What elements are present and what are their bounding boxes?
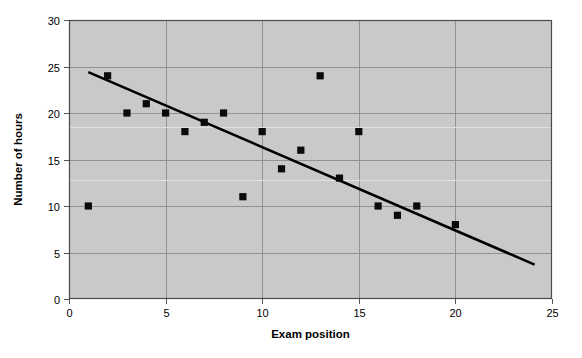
y-tick-label: 5 xyxy=(54,248,60,260)
data-point-marker xyxy=(375,202,382,209)
data-point-marker xyxy=(239,193,246,200)
y-tick-label: 25 xyxy=(48,62,60,74)
data-point-marker xyxy=(452,221,459,228)
data-point-marker xyxy=(336,175,343,182)
data-point-marker xyxy=(220,109,227,116)
x-tick-label: 15 xyxy=(353,307,365,319)
y-tick-label: 0 xyxy=(54,294,60,306)
x-axis-title: Exam position xyxy=(271,328,350,340)
x-tick-label: 10 xyxy=(256,307,268,319)
data-point-marker xyxy=(297,147,304,154)
data-point-marker xyxy=(413,202,420,209)
y-axis-title: Number of hours xyxy=(12,113,24,206)
data-point-marker xyxy=(85,202,92,209)
x-axis-tick-labels: 0510152025 xyxy=(66,307,558,319)
y-tick-label: 20 xyxy=(48,108,60,120)
data-point-marker xyxy=(278,165,285,172)
y-tick-label: 15 xyxy=(48,155,60,167)
data-point-marker xyxy=(123,109,130,116)
data-point-marker xyxy=(355,128,362,135)
data-point-marker xyxy=(259,128,266,135)
scatter-plot-figure: 0510152025 051015202530 Exam position Nu… xyxy=(0,0,582,358)
data-point-marker xyxy=(162,109,169,116)
x-tick-label: 20 xyxy=(449,307,461,319)
y-tick-label: 10 xyxy=(48,201,60,213)
data-point-marker xyxy=(181,128,188,135)
x-tick-label: 5 xyxy=(163,307,169,319)
data-point-marker xyxy=(394,212,401,219)
data-point-marker xyxy=(104,72,111,79)
chart-canvas: 0510152025 051015202530 Exam position Nu… xyxy=(0,0,582,358)
y-axis-tick-labels: 051015202530 xyxy=(48,15,60,306)
data-point-marker xyxy=(201,119,208,126)
data-point-marker xyxy=(143,100,150,107)
y-tick-label: 30 xyxy=(48,15,60,27)
plot-area-background xyxy=(69,20,552,299)
x-tick-label: 25 xyxy=(546,307,558,319)
x-tick-label: 0 xyxy=(66,307,72,319)
data-point-marker xyxy=(317,72,324,79)
